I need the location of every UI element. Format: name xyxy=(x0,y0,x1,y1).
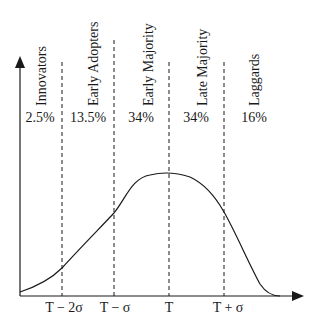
category-label-early-adopters: Early Adopters xyxy=(86,22,102,106)
category-percent-late-majority: 34% xyxy=(183,110,209,126)
x-axis-arrow-icon xyxy=(292,291,304,301)
x-tick-t-minus-sigma: T − σ xyxy=(100,300,131,316)
y-axis-arrow-icon xyxy=(15,56,25,68)
x-tick-t-plus-sigma: T + σ xyxy=(213,300,244,316)
category-label-late-majority: Late Majority xyxy=(195,29,211,106)
category-percent-laggards: 16% xyxy=(241,110,267,126)
category-label-innovators: Innovators xyxy=(34,46,50,106)
adoption-curve xyxy=(20,173,280,296)
category-percent-innovators: 2.5% xyxy=(25,110,54,126)
category-label-early-majority: Early Majority xyxy=(141,23,157,106)
x-tick-t-minus-2sigma: T − 2σ xyxy=(45,300,83,316)
x-tick-t: T xyxy=(165,300,174,316)
category-label-laggards: Laggards xyxy=(247,54,263,106)
category-percent-early-majority: 34% xyxy=(128,110,154,126)
category-percent-early-adopters: 13.5% xyxy=(70,110,106,126)
